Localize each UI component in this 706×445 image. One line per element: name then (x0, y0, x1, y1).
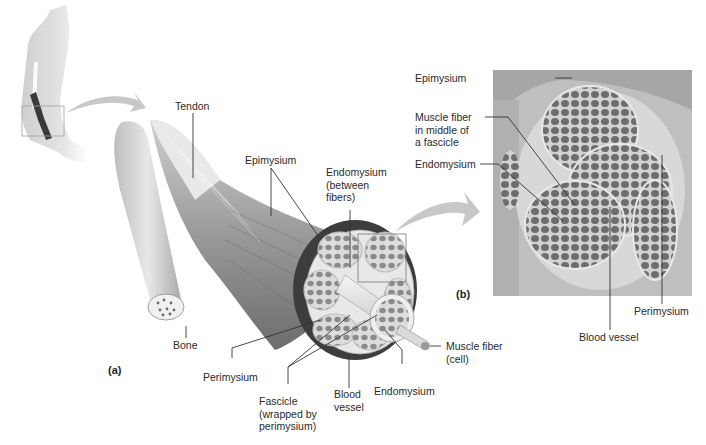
label-muscle-fiber-cell: Muscle fiber (cell) (446, 340, 503, 365)
panel-label-b: (b) (456, 288, 470, 300)
label-bone: Bone (173, 339, 198, 352)
label-epimysium-b: Epimysium (415, 72, 466, 85)
label-perimysium-b: Perimysium (634, 305, 689, 318)
label-blood-vessel-a: Blood vessel (334, 388, 364, 413)
label-muscle-fiber-middle-fascicle: Muscle fiber in middle of a fascicle (415, 111, 472, 149)
label-blood-vessel-b: Blood vessel (579, 331, 639, 344)
label-endomysium-between-fibers: Endomysium (between fibers) (326, 166, 387, 204)
label-endomysium-b: Endomysium (415, 158, 476, 171)
arrow-to-micrograph (395, 192, 480, 232)
label-epimysium-a: Epimysium (245, 154, 296, 167)
label-endomysium-a: Endomysium (374, 385, 435, 398)
muscle-cross-section (293, 220, 430, 360)
figure-canvas: Tendon Epimysium Endomysium (between fib… (0, 0, 706, 445)
arrow-to-muscle (66, 92, 146, 113)
arm-thumbnail (22, 5, 89, 162)
label-fascicle: Fascicle (wrapped by perimysium) (259, 395, 317, 433)
panel-label-a: (a) (108, 364, 121, 376)
label-tendon: Tendon (175, 100, 209, 113)
illustration (0, 0, 706, 445)
label-perimysium-a: Perimysium (203, 371, 258, 384)
